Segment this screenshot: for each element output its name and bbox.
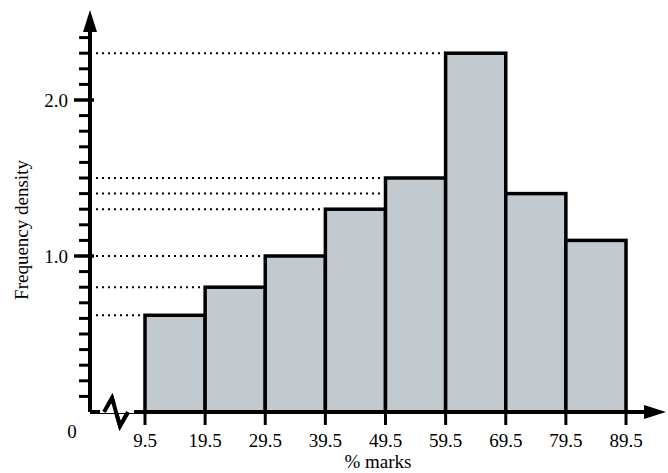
x-axis-tick-label: 69.5 — [489, 430, 522, 451]
histogram-bar — [265, 256, 325, 412]
x-axis-tick-labels: 9.519.529.539.549.559.569.579.589.5 — [133, 430, 643, 451]
x-axis-tick-label: 49.5 — [369, 430, 402, 451]
histogram-bar — [145, 315, 205, 412]
origin-zero-label: 0 — [67, 421, 77, 442]
y-axis-tick-label: 1.0 — [44, 246, 68, 267]
y-axis-tick-label: 2.0 — [44, 90, 68, 111]
x-axis-tick-label: 29.5 — [249, 430, 282, 451]
x-axis-tick-label: 59.5 — [429, 430, 462, 451]
histogram-bar — [386, 178, 446, 412]
x-axis-tick-label: 19.5 — [189, 430, 222, 451]
x-axis-tick-label: 9.5 — [133, 430, 157, 451]
histogram-bar — [325, 209, 385, 412]
x-axis-title: % marks — [344, 451, 411, 472]
y-axis-title: Frequency density — [11, 160, 32, 300]
histogram-bar — [205, 287, 265, 412]
histogram-bar — [506, 194, 566, 412]
histogram-bar — [566, 240, 626, 412]
histogram-bar — [446, 53, 506, 412]
x-axis-tick-label: 39.5 — [309, 430, 342, 451]
histogram-figure: 1.02.0 9.519.529.539.549.559.569.579.589… — [0, 0, 668, 473]
x-axis-tick-label: 89.5 — [609, 430, 642, 451]
x-axis-tick-label: 79.5 — [549, 430, 582, 451]
frequency-density-histogram: 1.02.0 9.519.529.539.549.559.569.579.589… — [0, 0, 668, 473]
